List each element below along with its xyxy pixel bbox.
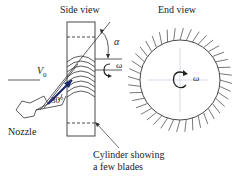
end-view-blade (161, 118, 168, 128)
alpha-label: α (114, 37, 119, 47)
side-view-label: Side view (60, 5, 100, 15)
end-view-blade (129, 69, 140, 74)
end-view-blade (208, 108, 214, 119)
cylinder-leader-line (97, 124, 119, 148)
end-view-blade (186, 29, 191, 40)
end-view-blade (169, 120, 174, 131)
end-view-blade (132, 98, 144, 100)
side-rotation-icon (104, 64, 112, 78)
cylinder-label-line1: Cylinder showing (93, 150, 164, 160)
end-view-blade (220, 80, 232, 83)
end-view-blade (185, 120, 187, 132)
turbine-diagram: Side view End view α ω ω V0 30° Nozzle C… (0, 0, 238, 176)
end-view-blade (220, 74, 232, 76)
jet-angle-label: 30° (51, 96, 64, 105)
end-view-blade (154, 116, 162, 125)
end-view-blade (218, 92, 228, 99)
omega-side-label: ω (116, 61, 122, 70)
end-view-blade (212, 52, 224, 56)
end-view-blade (132, 61, 142, 68)
end-view-blade (204, 40, 214, 48)
side-view-blades (67, 56, 95, 97)
end-view-blade (147, 112, 157, 120)
end-view-blade (216, 98, 225, 106)
end-view-blade (146, 41, 152, 52)
end-rotation-icon (174, 70, 189, 88)
end-view-blade (198, 35, 206, 44)
end-view-blade (212, 104, 220, 114)
omega-end-label: ω (193, 74, 199, 83)
end-view-blade (141, 108, 152, 114)
end-view-blade (152, 36, 156, 48)
end-view-blade (208, 46, 219, 52)
end-view-blade (220, 86, 231, 91)
end-view-blade (128, 85, 140, 87)
velocity-subscript: 0 (43, 71, 47, 79)
alpha-arc-arrow (100, 29, 110, 59)
end-view-blade (198, 116, 200, 128)
end-view-blade (136, 104, 148, 108)
end-view-blade (192, 32, 199, 42)
end-view-blade (180, 28, 183, 40)
end-view-blade (140, 47, 148, 57)
end-view-blade (177, 120, 180, 132)
end-view-blade (135, 54, 144, 62)
cylinder-label-line2: a few blades (93, 162, 143, 172)
end-view-blade (216, 59, 228, 61)
end-view (128, 28, 232, 132)
end-view-blade (128, 77, 140, 80)
end-view-label: End view (158, 5, 196, 15)
end-view-blade (174, 28, 176, 40)
velocity-label: V0 (37, 66, 47, 79)
end-view-blade (204, 112, 208, 124)
end-view-blade (159, 32, 161, 44)
nozzle-label: Nozzle (8, 127, 36, 137)
